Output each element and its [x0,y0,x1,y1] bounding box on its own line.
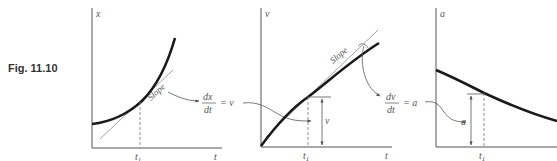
y-axis-label: x [95,8,101,19]
x-axis-label: t [385,150,388,161]
figure: Fig. 11.10 x t t1 Slope dx [0,0,557,161]
equals-v: = v [220,97,234,108]
numerator: dx [203,91,213,102]
slope-label: Slope [328,45,350,66]
equals-a: = a [403,97,417,108]
velocity-curve [261,43,379,146]
velocity-graph: v t t1 v Slope [261,8,392,161]
figure-label: Fig. 11.10 [8,62,58,74]
denominator: dt [387,104,395,115]
acceleration-graph: a t1 a [436,8,557,161]
t1-label: t1 [135,151,141,161]
value-label: a [461,116,466,127]
kinematics-diagram: x t t1 Slope dx dt = v v [0,0,557,161]
denominator: dt [204,104,212,115]
a-connector-arrow [425,102,466,122]
position-graph: x t t1 Slope [92,8,222,161]
numerator: dv [386,91,396,102]
slope-arrow [168,92,199,101]
x-axis-label: t [214,151,217,161]
value-label: v [325,115,330,126]
t1-label: t1 [479,150,485,161]
position-curve [92,38,175,124]
v-connector-arrow [243,103,311,121]
slope-label: Slope [146,82,167,103]
y-axis-label: v [265,8,270,19]
t1-label: t1 [303,150,309,161]
derivative-dv-dt: dv dt = a [385,91,466,122]
acceleration-curve [436,70,557,121]
y-axis-label: a [440,8,445,19]
